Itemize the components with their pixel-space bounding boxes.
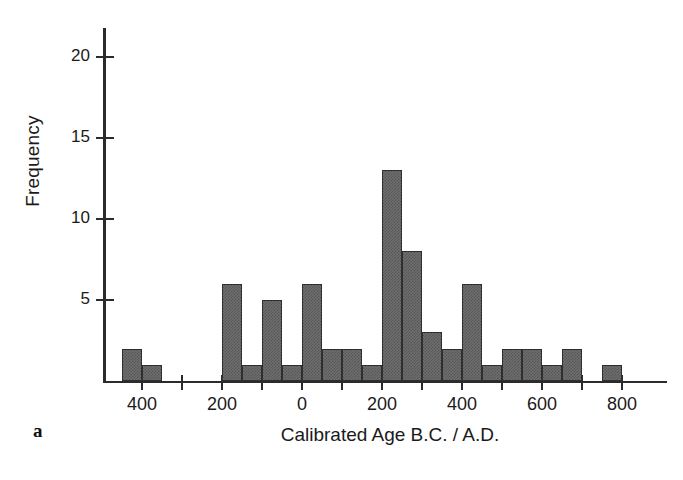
histogram-bar: [302, 284, 322, 381]
histogram-bar: [462, 284, 482, 381]
x-tick-label-200-3: 200: [352, 394, 412, 414]
histogram-bar: [282, 365, 302, 381]
y-tick-label-wrap: 5: [46, 290, 90, 308]
x-tick-label-400-4: 400: [432, 394, 492, 414]
histogram-bar: [342, 349, 362, 381]
histogram-figure: 5101520 4002000200400600800 Frequency Ca…: [0, 0, 683, 480]
histogram-bar: [362, 365, 382, 381]
histogram-bar: [482, 365, 502, 381]
y-tick-label-15: 15: [54, 128, 90, 145]
x-tick-label-600-5: 600: [512, 394, 572, 414]
y-tick-10: [96, 218, 114, 220]
histogram-bar: [542, 365, 562, 381]
y-axis-line: [103, 28, 106, 383]
y-tick-20: [96, 56, 114, 58]
histogram-bar: [122, 349, 142, 381]
histogram-bar: [322, 349, 342, 381]
x-tick-label-200-1: 200: [192, 394, 252, 414]
histogram-bar: [142, 365, 162, 381]
x-tick-label-0-2: 0: [272, 394, 332, 414]
histogram-bar: [442, 349, 462, 381]
y-tick-label-wrap: 20: [46, 47, 90, 65]
histogram-bar: [242, 365, 262, 381]
y-tick-15: [96, 137, 114, 139]
x-tick-label-400-0: 400: [112, 394, 172, 414]
histogram-bar: [562, 349, 582, 381]
y-tick-label-5: 5: [54, 290, 90, 307]
y-tick-label-10: 10: [54, 209, 90, 226]
histogram-bar: [402, 251, 422, 381]
histogram-bar: [222, 284, 242, 381]
plot-area: 5101520 4002000200400600800 Frequency Ca…: [0, 0, 683, 480]
y-tick-label-wrap: 10: [46, 209, 90, 227]
x-axis-label: Calibrated Age B.C. / A.D.: [160, 424, 620, 446]
histogram-bar: [602, 365, 622, 381]
y-tick-label-20: 20: [54, 47, 90, 64]
histogram-bar: [262, 300, 282, 381]
panel-label: a: [33, 420, 43, 442]
y-tick-5: [96, 299, 114, 301]
y-axis-label: Frequency: [22, 66, 44, 256]
histogram-bar: [422, 332, 442, 381]
histogram-bar: [382, 170, 402, 381]
x-tick-label-800-6: 800: [592, 394, 652, 414]
histogram-bar: [522, 349, 542, 381]
histogram-bar: [502, 349, 522, 381]
y-tick-label-wrap: 15: [46, 128, 90, 146]
x-tick--300: [181, 375, 183, 390]
